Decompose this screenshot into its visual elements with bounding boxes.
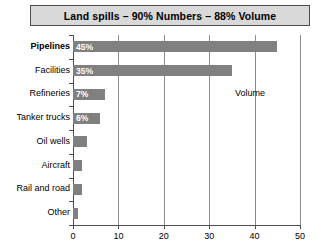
x-axis-tick — [255, 225, 256, 229]
gridline — [255, 35, 256, 225]
bar-row — [73, 160, 300, 171]
gridline — [118, 35, 119, 225]
y-axis-category-label: Other — [2, 207, 70, 217]
x-axis-line — [73, 225, 301, 226]
bar — [73, 160, 82, 171]
x-axis-tick — [73, 225, 74, 229]
y-axis-category-label: Pipelines — [2, 41, 70, 51]
y-axis-category-label: Oil wells — [2, 136, 70, 146]
bar: 6% — [73, 113, 100, 124]
x-axis-tick — [300, 225, 301, 229]
bar-value-label: 45% — [73, 42, 93, 52]
y-axis-labels: PipelinesFacilitiesRefineriesTanker truc… — [0, 35, 70, 225]
bar-row: 7% — [73, 89, 300, 100]
bar: 35% — [73, 65, 232, 76]
chart-title-box: Land spills – 90% Numbers – 88% Volume — [30, 5, 310, 26]
bar-value-label: 7% — [73, 89, 88, 99]
bar — [73, 208, 78, 219]
bar-value-label: 6% — [73, 113, 88, 123]
y-axis-category-label: Rail and road — [2, 183, 70, 193]
chart-container: Land spills – 90% Numbers – 88% Volume P… — [0, 0, 328, 251]
x-axis-tick-label: 10 — [113, 231, 123, 241]
y-axis-tick — [69, 178, 73, 179]
gridline — [164, 35, 165, 225]
x-axis-tick — [209, 225, 210, 229]
bar-value-label: 35% — [73, 66, 93, 76]
y-axis-tick — [69, 130, 73, 131]
bar-row: 6% — [73, 113, 300, 124]
bar-row — [73, 184, 300, 195]
bar-row — [73, 208, 300, 219]
y-axis-tick — [69, 106, 73, 107]
y-axis-category-label: Aircraft — [2, 160, 70, 170]
y-axis-category-label: Tanker trucks — [2, 112, 70, 122]
gridline — [209, 35, 210, 225]
bar — [73, 136, 87, 147]
bar-row: 35% — [73, 65, 300, 76]
y-axis-tick — [69, 154, 73, 155]
x-axis-tick-label: 20 — [159, 231, 169, 241]
x-axis-tick-label: 0 — [70, 231, 75, 241]
bar — [73, 184, 82, 195]
volume-annotation: Volume — [235, 88, 265, 98]
y-axis-tick — [69, 35, 73, 36]
bar-row: 45% — [73, 41, 300, 52]
y-axis-tick — [69, 225, 73, 226]
plot-area: 45%35%7%6% — [73, 35, 300, 225]
y-axis-category-label: Facilities — [2, 65, 70, 75]
bar-row — [73, 136, 300, 147]
y-axis-tick — [69, 83, 73, 84]
y-axis-tick — [69, 59, 73, 60]
x-axis-tick-label: 40 — [250, 231, 260, 241]
chart-title: Land spills – 90% Numbers – 88% Volume — [64, 10, 277, 22]
bar: 7% — [73, 89, 105, 100]
x-axis-tick — [118, 225, 119, 229]
x-axis-tick-label: 30 — [204, 231, 214, 241]
y-axis-category-label: Refineries — [2, 88, 70, 98]
y-axis-tick — [69, 201, 73, 202]
bar: 45% — [73, 41, 277, 52]
x-axis-tick — [164, 225, 165, 229]
x-axis-tick-label: 50 — [295, 231, 305, 241]
gridline — [300, 35, 301, 225]
